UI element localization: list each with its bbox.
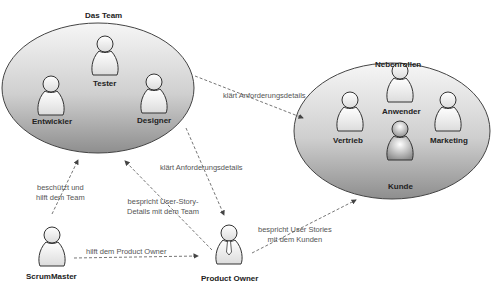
side-title: Nebenrollen — [375, 60, 421, 69]
edge-label-po-to-side: bespricht User Stories mit dem Kunden — [258, 225, 332, 245]
designer-label: Designer — [137, 116, 171, 125]
edge-label-team-to-side: klärt Anforderungsdetails — [223, 91, 306, 101]
edge-label-po-to-team: bespricht User-Story- Details mit dem Te… — [127, 197, 199, 217]
anwender-label: Anwender — [382, 107, 421, 116]
tester-label: Tester — [93, 79, 116, 88]
vertrieb-label: Vertrieb — [333, 136, 363, 145]
edge-label-sm-to-team: beschützt und hilft dem Team — [36, 183, 85, 203]
product-owner-icon — [216, 225, 242, 264]
kunde-label: Kunde — [388, 182, 413, 191]
product-owner-label: Product Owner — [201, 274, 258, 283]
edge-label-team-to-po: klärt Anforderungsdetails — [160, 163, 243, 173]
marketing-label: Marketing — [430, 136, 468, 145]
entwickler-label: Entwickler — [32, 117, 72, 126]
team-title: Das Team — [85, 11, 122, 20]
scrummaster-label: ScrumMaster — [26, 272, 77, 281]
scrummaster-icon — [39, 227, 65, 266]
diagram-canvas — [0, 0, 498, 294]
edge-label-sm-to-po: hilft dem Product Owner — [86, 247, 166, 257]
